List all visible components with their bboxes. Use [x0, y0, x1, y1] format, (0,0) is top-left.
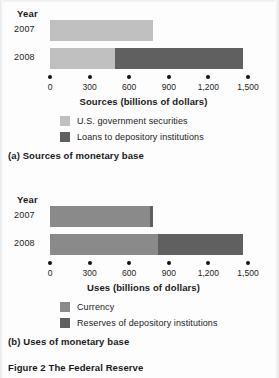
panel-b-category-label-2008: 2008 — [14, 238, 35, 248]
panel-a-legend-swatch-2 — [60, 132, 70, 142]
panel-a-segment-2008-2 — [115, 48, 243, 69]
panel-b-tick-dot-0 — [48, 261, 52, 265]
panel-a-tick-label-2: 600 — [122, 82, 136, 92]
panel-b-legend-label-1: Currency — [77, 302, 114, 312]
scan-edge-left — [0, 0, 3, 378]
panel-b-segment-2007-1 — [50, 206, 150, 227]
panel-a-legend-swatch-1 — [60, 116, 70, 126]
panel-a-tick-dot-5 — [246, 75, 250, 79]
panel-b-tick-label-2: 600 — [122, 268, 136, 278]
panel-b-year-header: Year — [17, 194, 38, 205]
panel-b-legend-swatch-2 — [60, 318, 70, 328]
panel-a-category-label-2008: 2008 — [14, 52, 35, 62]
panel-a-tick-label-1: 300 — [83, 82, 97, 92]
panel-a-sub-caption: (a) Sources of monetary base — [8, 150, 144, 161]
panel-b-tick-dot-5 — [246, 261, 250, 265]
panel-b-legend-swatch-1 — [60, 302, 70, 312]
panel-a-segment-2008-1 — [50, 48, 115, 69]
panel-a-legend: U.S. government securitiesLoans to depos… — [60, 114, 204, 146]
panel-b-tick-dot-2 — [127, 261, 131, 265]
panel-b-plot-area — [50, 204, 248, 259]
panel-a-tick-label-0: 0 — [48, 82, 53, 92]
panel-a-tick-dot-1 — [88, 75, 92, 79]
panel-b-segment-2008-1 — [50, 234, 158, 255]
panel-a-tick-label-3: 900 — [162, 82, 176, 92]
panel-a-bar-2007 — [50, 20, 153, 41]
panel-b-legend-item-2: Reserves of depository institutions — [60, 316, 218, 330]
panel-a-segment-2007-1 — [50, 20, 153, 41]
panel-a-bar-2008 — [50, 48, 243, 69]
figure-caption: Figure 2 The Federal Reserve — [8, 362, 143, 373]
panel-b-tick-label-0: 0 — [48, 268, 53, 278]
panel-b-bar-2008 — [50, 234, 243, 255]
panel-b-tick-dot-3 — [167, 261, 171, 265]
panel-a-tick-dot-3 — [167, 75, 171, 79]
panel-a-plot-area — [50, 18, 248, 73]
panel-a-legend-label-2: Loans to depository institutions — [77, 132, 204, 142]
panel-b-tick-dot-4 — [206, 261, 210, 265]
panel-b-tick-label-5: 1,500 — [237, 268, 258, 278]
panel-b-segment-2007-2 — [150, 206, 153, 227]
panel-a-tick-dot-4 — [206, 75, 210, 79]
panel-a-axis-title: Sources (billions of dollars) — [0, 96, 279, 107]
panel-b-tick-label-3: 900 — [162, 268, 176, 278]
panel-b-tick-label-4: 1,200 — [198, 268, 219, 278]
scan-edge-right — [275, 0, 279, 378]
scan-edge-top — [0, 0, 279, 3]
figure-page: Year 2007 2008 03006009001,2001,500 Sour… — [0, 0, 279, 378]
panel-b-legend-label-2: Reserves of depository institutions — [77, 318, 218, 328]
panel-a-tick-dot-0 — [48, 75, 52, 79]
panel-b-bar-2007 — [50, 206, 153, 227]
panel-b-axis-title: Uses (billions of dollars) — [0, 282, 279, 293]
panel-a-legend-item-1: U.S. government securities — [60, 114, 204, 128]
panel-a-legend-label-1: U.S. government securities — [77, 116, 188, 126]
panel-a-tick-dot-2 — [127, 75, 131, 79]
panel-b-legend: CurrencyReserves of depository instituti… — [60, 300, 218, 332]
panel-b-segment-2008-2 — [158, 234, 242, 255]
panel-b-sub-caption: (b) Uses of monetary base — [8, 336, 129, 347]
panel-b-tick-label-1: 300 — [83, 268, 97, 278]
panel-a-year-header: Year — [17, 8, 38, 19]
panel-a-category-label-2007: 2007 — [14, 24, 35, 34]
panel-b-legend-item-1: Currency — [60, 300, 218, 314]
panel-a-tick-label-5: 1,500 — [237, 82, 258, 92]
panel-a-tick-label-4: 1,200 — [198, 82, 219, 92]
panel-b-tick-dot-1 — [88, 261, 92, 265]
panel-b-category-label-2007: 2007 — [14, 210, 35, 220]
panel-a-legend-item-2: Loans to depository institutions — [60, 130, 204, 144]
